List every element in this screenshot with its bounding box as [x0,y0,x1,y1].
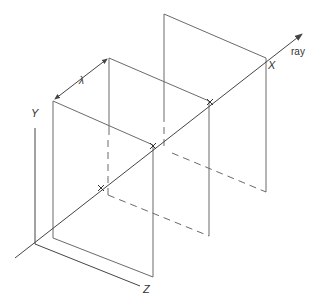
wavefront-diagram: Y Z X ray λ [0,0,321,300]
z-axis [35,244,140,286]
ray-label: ray [291,46,305,57]
x-axis-label: X [267,59,276,71]
back-wavefront-plane [164,14,266,192]
z-axis-label: Z [142,283,151,295]
intersection-markers [98,99,213,191]
middle-wavefront-plane [108,58,209,236]
wavelength-label: λ [78,75,84,86]
y-axis-label: Y [31,107,39,119]
ray-arrow [15,34,302,258]
